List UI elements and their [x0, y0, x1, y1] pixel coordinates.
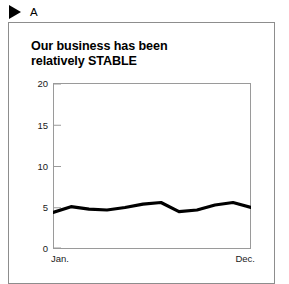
y-tick-label-10: 10	[37, 162, 48, 171]
chart-panel: Our business has been relatively STABLE …	[8, 22, 275, 284]
y-axis-ticks	[54, 84, 61, 248]
data-line	[53, 203, 251, 213]
chart-title-line-2: relatively STABLE	[31, 54, 231, 69]
chart-svg	[53, 83, 251, 249]
x-tick-label-jan: Jan.	[51, 254, 69, 264]
figure-marker: A	[9, 5, 38, 19]
plot-area: 20 15 10 5 0 Jan. Dec.	[53, 83, 251, 249]
x-tick-label-dec: Dec.	[235, 254, 255, 264]
chart-title-line-1: Our business has been	[31, 39, 167, 53]
y-tick-label-0: 0	[43, 244, 48, 253]
right-triangle-icon	[9, 5, 21, 19]
y-tick-label-20: 20	[37, 79, 48, 88]
y-tick-label-15: 15	[37, 121, 48, 130]
y-tick-label-5: 5	[43, 203, 48, 212]
chart-title: Our business has been relatively STABLE	[31, 39, 231, 69]
figure-letter: A	[30, 5, 38, 19]
